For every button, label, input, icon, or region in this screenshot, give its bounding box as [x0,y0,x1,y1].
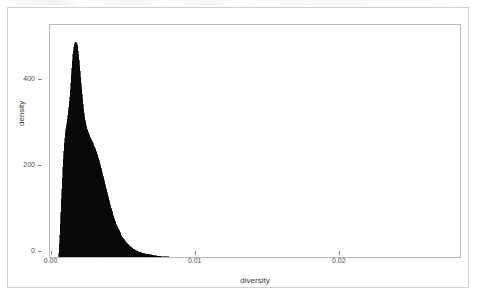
x-tick-mark [195,251,196,255]
x-tick-label: 0.01 [188,257,202,265]
scan-artifact [0,0,477,5]
plot-panel [49,24,461,258]
y-tick-label: 400 [8,75,35,83]
y-tick-mark [38,165,42,166]
y-tick-label: 200 [8,161,35,169]
x-axis-title: diversity [49,276,461,285]
y-axis-title: density [17,101,26,126]
x-tick-label: 0.00 [44,257,58,265]
x-tick-label: 0.02 [332,257,346,265]
x-tick-mark [51,251,52,255]
x-tick-mark [339,251,340,255]
y-tick-mark [38,251,42,252]
y-tick-mark [38,79,42,80]
y-tick-label: 0 [8,247,35,255]
density-area-plot [50,25,461,258]
figure-frame: 0200400 0.000.010.02 density diversity [7,7,469,288]
figure-root: 0200400 0.000.010.02 density diversity [0,0,477,295]
